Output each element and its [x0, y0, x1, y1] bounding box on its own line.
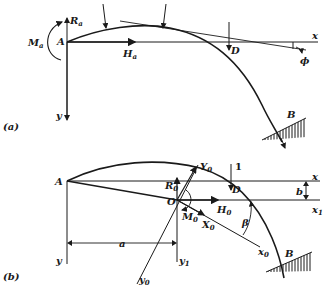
label-a-point: A: [56, 36, 65, 47]
label-ra: Ra: [69, 15, 83, 28]
label-r0: R0: [164, 180, 178, 193]
load-arrow-2: [163, 4, 166, 28]
panel-a-tag: (a): [3, 121, 19, 132]
label-a-dim: a: [119, 238, 125, 249]
label-ha: Ha: [122, 48, 137, 61]
label-y1: y1: [178, 255, 190, 268]
label-y0-cap: Y0: [200, 161, 212, 174]
label-b-support: B: [284, 248, 293, 259]
panel-b-tag: (b): [3, 271, 20, 282]
arch-curve-b: [67, 162, 284, 278]
panel-b: A R0 O M0 X0 Y0 H0 1 D b x x1 β x0 a y y…: [3, 161, 323, 286]
label-d-b: D: [231, 184, 241, 195]
label-d: D: [230, 45, 240, 56]
arch-curve-a: [67, 26, 282, 142]
label-load: 1: [235, 161, 242, 172]
label-b-dim: b: [296, 186, 303, 197]
label-beta: β: [241, 217, 249, 228]
panel-a: Ra Ma A Ha D x ϕ y B (a): [3, 4, 319, 148]
label-x0: x0: [257, 246, 269, 259]
label-ma: Ma: [27, 37, 44, 50]
label-m0: M0: [181, 211, 198, 224]
label-a-point-b: A: [54, 176, 63, 187]
label-x: x: [311, 30, 319, 41]
label-b: B: [286, 109, 295, 120]
label-o: O: [167, 196, 176, 207]
label-x1: x1: [311, 204, 323, 217]
load-arrow-1: [103, 4, 106, 28]
support-b-a: [262, 118, 306, 148]
label-h0: H0: [216, 204, 231, 217]
label-y-b: y: [55, 255, 63, 266]
label-x0-cap: X0: [201, 219, 215, 232]
label-y: y: [55, 110, 63, 121]
label-y0: y0: [138, 274, 150, 286]
label-phi: ϕ: [300, 55, 310, 66]
label-x-b: x: [311, 171, 319, 182]
arch-diagram: Ra Ma A Ha D x ϕ y B (a): [0, 0, 324, 286]
